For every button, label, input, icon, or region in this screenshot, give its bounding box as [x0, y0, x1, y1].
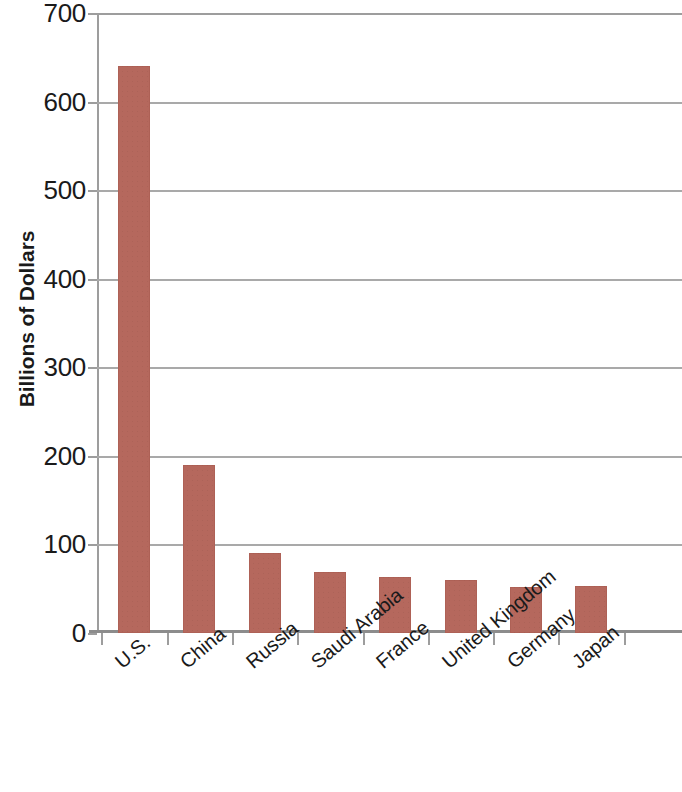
- y-axis-line: [97, 13, 99, 633]
- bar: [118, 66, 150, 633]
- x-tick-label: U.S.: [111, 631, 155, 673]
- y-tick-mark: [88, 367, 97, 369]
- bar: [183, 465, 215, 633]
- y-tick-mark: [88, 190, 97, 192]
- y-tick-mark: [88, 102, 97, 104]
- y-tick-mark: [88, 456, 97, 458]
- y-axis-title: Billions of Dollars: [15, 209, 39, 429]
- gridline: [97, 279, 682, 281]
- bar: [249, 553, 281, 633]
- y-tick-label: 300: [44, 352, 86, 383]
- y-tick-label: 200: [44, 440, 86, 471]
- bar: [445, 580, 477, 633]
- gridline: [97, 190, 682, 192]
- y-tick-label: 100: [44, 529, 86, 560]
- y-tick-label: 500: [44, 175, 86, 206]
- bar-chart: Billions of Dollars 01002003004005006007…: [0, 0, 682, 792]
- gridline: [97, 367, 682, 369]
- gridline: [97, 13, 682, 15]
- x-tick-mark: [101, 633, 103, 645]
- plot-area: 0100200300400500600700 U.S.ChinaRussiaSa…: [97, 13, 682, 633]
- x-tick-mark: [624, 633, 626, 645]
- y-tick-mark: [88, 13, 97, 15]
- y-tick-label: 700: [44, 0, 86, 29]
- gridline: [97, 456, 682, 458]
- y-tick-label: 400: [44, 263, 86, 294]
- x-tick-mark: [232, 633, 234, 645]
- y-tick-label: 0: [72, 618, 86, 649]
- y-tick-label: 600: [44, 86, 86, 117]
- x-tick-mark: [167, 633, 169, 645]
- gridline: [97, 102, 682, 104]
- y-tick-mark: [88, 633, 97, 635]
- y-tick-mark: [88, 279, 97, 281]
- bar: [314, 572, 346, 633]
- y-tick-mark: [88, 544, 97, 546]
